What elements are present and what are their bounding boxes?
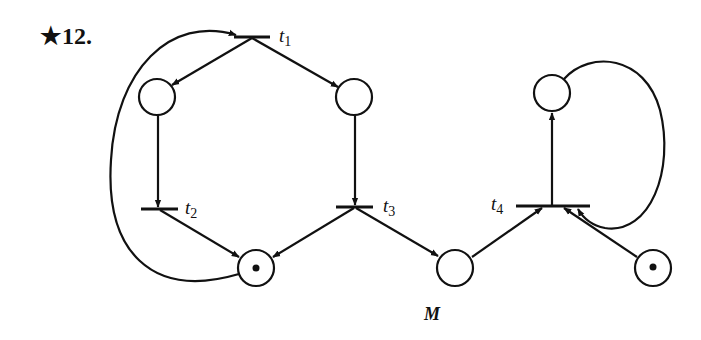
label-t3: t3 [383, 195, 395, 219]
place-top-right [534, 75, 570, 111]
arc-t1-to-p-top-left [172, 38, 252, 85]
arc-t2-to-p-bottom-left [160, 210, 239, 257]
label-t4: t4 [491, 193, 503, 217]
arc-t3-to-p-bottom-middle [356, 208, 438, 256]
label-t2: t2 [185, 197, 197, 221]
caption-marking-m: M [423, 304, 441, 324]
arc-p-bottom-middle-to-t4 [472, 208, 542, 257]
place-bottom-middle [437, 250, 473, 286]
token-bottom-right [650, 264, 657, 271]
arc-p-bottom-left-to-t1 [110, 31, 239, 281]
label-t1: t1 [279, 25, 291, 49]
arc-p-top-right-to-t4 [564, 62, 664, 229]
place-top-left [139, 79, 175, 115]
arc-t1-to-p-top-middle [252, 38, 338, 87]
arc-p-bottom-right-to-t4 [564, 208, 637, 257]
arc-t3-to-p-bottom-left [273, 208, 354, 257]
petri-net-diagram: t1 t2 t3 t4 M [0, 0, 701, 340]
place-top-middle [336, 79, 372, 115]
token-bottom-left [253, 265, 260, 272]
